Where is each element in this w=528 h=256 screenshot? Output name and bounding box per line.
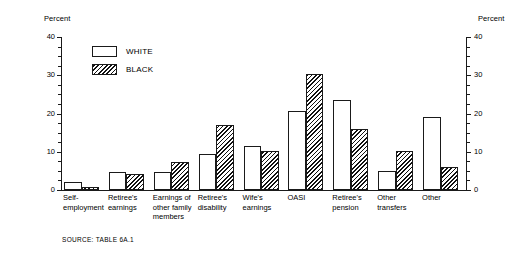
y-tick-label-left-30: 30: [31, 71, 55, 79]
y-tick-right-32.5: [467, 66, 470, 67]
y-tick-left-25: [58, 94, 61, 95]
y-tick-label-right-30: 30: [474, 71, 498, 79]
bar-white-0: [64, 182, 82, 190]
x-axis-baseline: [61, 190, 467, 191]
x-category-label-7: Other transfers: [377, 193, 428, 212]
y-tick-right-30: [467, 75, 471, 76]
bar-white-7: [378, 171, 396, 190]
hatched-box-swatch-icon: [92, 64, 117, 75]
bar-white-2: [154, 172, 172, 190]
right-axis-title: Percent: [478, 14, 505, 23]
y-tick-right-22.5: [467, 104, 470, 105]
y-tick-label-right-40: 40: [474, 33, 498, 41]
bar-black-8: [441, 167, 459, 190]
bar-white-3: [199, 154, 217, 190]
bar-black-3: [216, 125, 234, 190]
y-tick-left-17.5: [58, 123, 61, 124]
bar-black-4: [261, 151, 279, 190]
y-tick-label-left-10: 10: [31, 148, 55, 156]
legend-label-black: BLACK: [126, 65, 153, 74]
x-category-label-4: Wife's earnings: [243, 193, 294, 212]
y-tick-left-22.5: [58, 104, 61, 105]
bar-white-4: [244, 146, 262, 190]
bar-black-2: [171, 162, 189, 190]
y-tick-left-30: [57, 75, 61, 76]
y-tick-label-right-10: 10: [474, 148, 498, 156]
chart-legend: WHITE BLACK: [92, 44, 188, 80]
y-tick-left-12.5: [58, 142, 61, 143]
bar-white-8: [423, 117, 441, 190]
chart-figure: Percent Percent 001010202030304040 Self-…: [0, 0, 528, 256]
legend-item-white: WHITE: [92, 44, 188, 59]
y-tick-right-20: [467, 114, 471, 115]
left-axis-title: Percent: [44, 14, 71, 23]
x-category-label-5: OASI: [287, 193, 338, 203]
bar-black-6: [351, 129, 369, 190]
y-tick-right-12.5: [467, 142, 470, 143]
source-note: SOURCE: TABLE 6A.1: [62, 236, 134, 243]
y-tick-right-37.5: [467, 47, 470, 48]
x-category-label-6: Retiree's pension: [332, 193, 383, 212]
y-tick-right-10: [467, 152, 471, 153]
bar-black-7: [396, 151, 414, 190]
y-tick-left-40: [57, 37, 61, 38]
y-tick-left-37.5: [58, 47, 61, 48]
y-tick-right-15: [467, 133, 470, 134]
y-tick-left-27.5: [58, 85, 61, 86]
y-tick-label-left-20: 20: [31, 110, 55, 118]
x-category-label-1: Retiree's earnings: [108, 193, 159, 212]
x-category-label-0: Self- employment: [63, 193, 114, 212]
y-tick-right-5: [467, 171, 470, 172]
y-tick-label-right-0: 0: [474, 186, 498, 194]
bar-white-6: [333, 100, 351, 190]
y-tick-left-20: [57, 114, 61, 115]
legend-label-white: WHITE: [126, 47, 153, 56]
y-tick-left-15: [58, 133, 61, 134]
open-box-swatch-icon: [92, 46, 117, 57]
y-tick-right-40: [467, 37, 471, 38]
y-tick-left-2.5: [58, 180, 61, 181]
y-tick-left-5: [58, 171, 61, 172]
x-category-label-2: Earnings of other family members: [153, 193, 204, 222]
y-tick-left-10: [57, 152, 61, 153]
bar-black-1: [126, 174, 144, 190]
y-tick-right-27.5: [467, 85, 470, 86]
y-tick-left-7.5: [58, 161, 61, 162]
bar-black-0: [82, 187, 100, 190]
y-tick-right-0: [467, 190, 471, 191]
y-tick-right-35: [467, 56, 470, 57]
y-tick-right-17.5: [467, 123, 470, 124]
bar-white-5: [288, 111, 306, 190]
y-tick-right-2.5: [467, 180, 470, 181]
y-tick-label-right-20: 20: [474, 110, 498, 118]
y-tick-right-7.5: [467, 161, 470, 162]
x-category-label-8: Other: [422, 193, 473, 203]
y-tick-label-left-40: 40: [31, 33, 55, 41]
bar-black-5: [306, 74, 324, 190]
y-tick-label-left-0: 0: [31, 186, 55, 194]
y-tick-right-25: [467, 94, 470, 95]
legend-item-black: BLACK: [92, 62, 188, 77]
left-axis-line: [61, 37, 62, 190]
y-tick-left-0: [57, 190, 61, 191]
y-tick-left-35: [58, 56, 61, 57]
y-tick-left-32.5: [58, 66, 61, 67]
bar-white-1: [109, 172, 127, 190]
x-category-label-3: Retiree's disability: [198, 193, 249, 212]
